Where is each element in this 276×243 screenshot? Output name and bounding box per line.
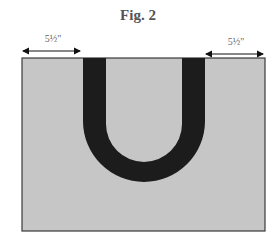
fabric-panel [22, 58, 265, 231]
diagram-canvas [0, 0, 276, 243]
